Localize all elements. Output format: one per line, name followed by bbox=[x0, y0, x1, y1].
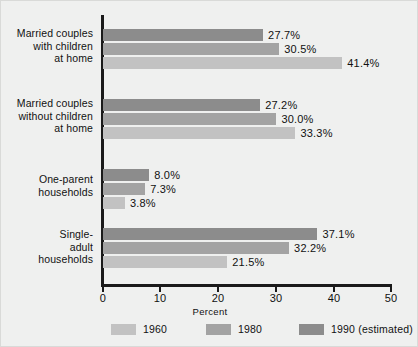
bar-value-label: 7.3% bbox=[150, 183, 176, 195]
legend-label-1960: 1960 bbox=[143, 323, 167, 335]
x-axis-line bbox=[101, 284, 392, 287]
bar bbox=[103, 169, 149, 181]
category-label-line: adult bbox=[0, 241, 93, 254]
legend-swatch-1990 bbox=[299, 324, 324, 335]
category-label-line: with children bbox=[0, 40, 93, 53]
bar-value-label: 27.7% bbox=[268, 29, 300, 41]
category-label-married-without-children: Married couples without children at home bbox=[0, 97, 93, 135]
bar bbox=[103, 183, 145, 195]
bar bbox=[103, 113, 276, 125]
category-label-line: Married couples bbox=[0, 27, 93, 40]
x-tick-label-10: 10 bbox=[140, 292, 180, 304]
bar bbox=[103, 127, 295, 139]
bar-value-label: 30.5% bbox=[284, 43, 316, 55]
legend-item-1990: 1990 (estimated) bbox=[299, 321, 413, 337]
category-label-single-adult-households: Single- adult households bbox=[0, 228, 93, 266]
x-axis-title: Percent bbox=[1, 306, 418, 317]
bar bbox=[103, 197, 125, 209]
legend-swatch-1960 bbox=[111, 324, 136, 335]
category-label-line: households bbox=[0, 186, 93, 199]
bar bbox=[103, 256, 227, 268]
bar-value-label: 21.5% bbox=[232, 256, 264, 268]
category-label-married-with-children: Married couples with children at home bbox=[0, 27, 93, 65]
category-label-line: without children bbox=[0, 110, 93, 123]
bar-value-label: 33.3% bbox=[300, 127, 332, 139]
bar bbox=[103, 242, 289, 254]
category-label-line: Single- bbox=[0, 228, 93, 241]
category-label-line: at home bbox=[0, 52, 93, 65]
category-label-line: households bbox=[0, 253, 93, 266]
chart-figure: Married couples with children at home Ma… bbox=[0, 0, 418, 347]
bar-value-label: 41.4% bbox=[347, 57, 379, 69]
bar bbox=[103, 228, 317, 240]
category-label-one-parent-households: One-parent households bbox=[0, 173, 93, 198]
bar bbox=[103, 57, 342, 69]
bar bbox=[103, 43, 279, 55]
legend-label-1980: 1980 bbox=[238, 323, 262, 335]
bar-value-label: 37.1% bbox=[322, 228, 354, 240]
bar-value-label: 27.2% bbox=[265, 99, 297, 111]
legend-label-1990: 1990 (estimated) bbox=[331, 323, 413, 335]
bar bbox=[103, 99, 260, 111]
legend-item-1980: 1980 bbox=[206, 321, 262, 337]
x-tick-label-20: 20 bbox=[198, 292, 238, 304]
x-tick-label-0: 0 bbox=[83, 292, 123, 304]
x-tick-label-30: 30 bbox=[256, 292, 296, 304]
x-tick-label-50: 50 bbox=[371, 292, 411, 304]
category-label-line: at home bbox=[0, 122, 93, 135]
category-label-line: One-parent bbox=[0, 173, 93, 186]
bar-value-label: 8.0% bbox=[154, 169, 180, 181]
bar-value-label: 30.0% bbox=[281, 113, 313, 125]
bar-value-label: 3.8% bbox=[130, 197, 156, 209]
legend-swatch-1980 bbox=[206, 324, 231, 335]
bar-value-label: 32.2% bbox=[294, 242, 326, 254]
legend-item-1960: 1960 bbox=[111, 321, 167, 337]
bar bbox=[103, 29, 263, 41]
category-label-line: Married couples bbox=[0, 97, 93, 110]
x-tick-label-40: 40 bbox=[314, 292, 354, 304]
chart-legend: 1960 1980 1990 (estimated) bbox=[1, 321, 418, 341]
